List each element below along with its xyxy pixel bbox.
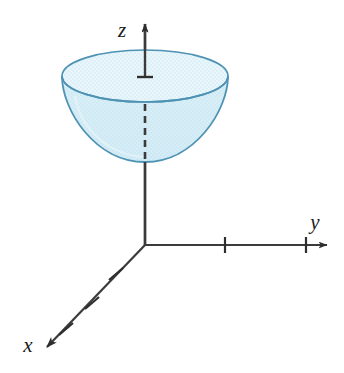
x-axis-tick-1 — [109, 268, 123, 280]
x-axis-tick-3 — [59, 323, 73, 335]
y-axis-label: y — [308, 210, 320, 234]
x-axis-label: x — [22, 333, 33, 357]
x-axis — [47, 245, 145, 347]
y-axis — [145, 237, 327, 253]
paraboloid-diagram: z y x — [0, 0, 344, 373]
z-axis-label: z — [117, 18, 126, 42]
figure-canvas: z y x — [0, 0, 344, 373]
